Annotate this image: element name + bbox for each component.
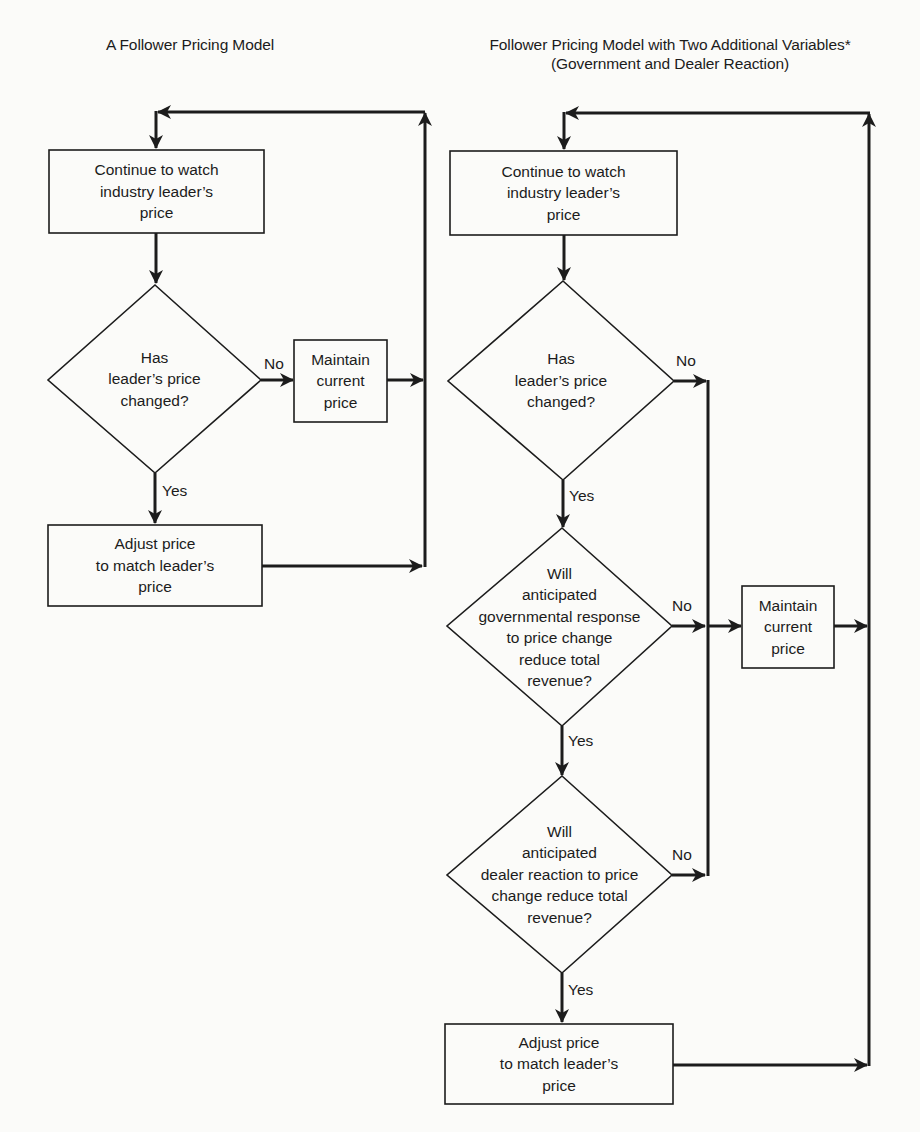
node-text: current: [316, 370, 364, 392]
right-model-title-line2: (Government and Dealer Reaction): [420, 54, 920, 73]
right-decision-government-node: Will anticipated governmental response t…: [447, 528, 672, 726]
node-text: governmental response: [479, 606, 641, 628]
node-text: industry leader’s: [507, 182, 620, 204]
node-text: price: [324, 392, 358, 414]
node-text: Will: [547, 563, 572, 585]
left-edge-label-no: No: [264, 355, 284, 373]
node-text: price: [771, 638, 805, 660]
node-text: leader’s price: [515, 370, 607, 392]
node-text: change reduce total: [491, 885, 627, 907]
right-adjust-node: Adjust price to match leader’s price: [445, 1024, 673, 1104]
node-text: to price change: [507, 627, 613, 649]
node-text: current: [764, 616, 812, 638]
node-text: reduce total: [519, 649, 600, 671]
left-model-title: A Follower Pricing Model: [60, 35, 320, 54]
node-text: Maintain: [311, 349, 370, 371]
right-edge-label-dealer-no: No: [672, 846, 692, 864]
node-text: price: [140, 202, 174, 224]
left-maintain-node: Maintain current price: [294, 340, 387, 422]
right-edge-label-government-yes: Yes: [568, 732, 593, 750]
node-text: Maintain: [759, 595, 818, 617]
right-watch-node: Continue to watch industry leader’s pric…: [450, 151, 677, 235]
left-adjust-node: Adjust price to match leader’s price: [48, 525, 262, 606]
node-text: anticipated: [522, 842, 597, 864]
node-text: Continue to watch: [94, 159, 218, 181]
right-edge-label-changed-no: No: [676, 352, 696, 370]
node-text: Will: [547, 821, 572, 843]
left-decision-changed-node: Has leader’s price changed?: [48, 285, 261, 473]
left-watch-node: Continue to watch industry leader’s pric…: [49, 150, 264, 233]
node-text: Has: [547, 348, 575, 370]
right-maintain-node: Maintain current price: [742, 586, 834, 668]
node-text: revenue?: [527, 907, 592, 929]
node-text: to match leader’s: [500, 1053, 618, 1075]
node-text: to match leader’s: [96, 555, 214, 577]
node-text: price: [138, 576, 172, 598]
right-edge-label-government-no: No: [672, 597, 692, 615]
right-decision-dealer-node: Will anticipated dealer reaction to pric…: [447, 776, 672, 973]
node-text: Adjust price: [115, 533, 196, 555]
node-text: Adjust price: [519, 1032, 600, 1054]
node-text: changed?: [527, 391, 595, 413]
node-text: revenue?: [527, 670, 592, 692]
node-text: changed?: [120, 390, 188, 412]
node-text: anticipated: [522, 584, 597, 606]
right-decision-changed-node: Has leader’s price changed?: [448, 281, 674, 480]
node-text: dealer reaction to price: [481, 864, 639, 886]
right-model-title-line1: Follower Pricing Model with Two Addition…: [420, 35, 920, 54]
right-edge-label-changed-yes: Yes: [569, 487, 594, 505]
right-edge-label-dealer-yes: Yes: [568, 981, 593, 999]
node-text: leader’s price: [108, 368, 200, 390]
node-text: Has: [141, 347, 169, 369]
node-text: Continue to watch: [501, 161, 625, 183]
left-edge-label-yes: Yes: [162, 482, 187, 500]
flowchart-page: A Follower Pricing Model Follower Pricin…: [0, 0, 920, 1132]
right-model-title: Follower Pricing Model with Two Addition…: [420, 35, 920, 73]
node-text: price: [542, 1075, 576, 1097]
node-text: price: [547, 204, 581, 226]
node-text: industry leader’s: [100, 181, 213, 203]
